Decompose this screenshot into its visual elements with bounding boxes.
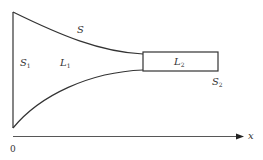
region-one-label: L1 [59, 57, 70, 69]
outlet-section-label: S2 [212, 76, 223, 88]
origin-label: 0 [10, 144, 16, 154]
x-axis-label: x [248, 130, 254, 141]
region-two-label: L2 [173, 56, 185, 68]
x-axis-arrow-icon [236, 134, 244, 140]
surface-label: S [77, 24, 84, 35]
lower-wall-curve [13, 70, 143, 128]
inlet-section-label: S1 [20, 57, 31, 69]
diagram-canvas: S S1 L1 L2 S2 x 0 [0, 0, 263, 160]
